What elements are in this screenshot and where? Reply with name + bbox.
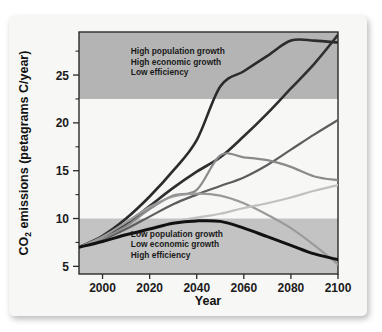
y-axis-title-post: emissions (petagrams C/year): [17, 51, 31, 232]
x-tick-label: 2000: [89, 281, 116, 295]
x-tick-label: 2100: [325, 281, 352, 295]
x-tick-label: 2080: [278, 281, 305, 295]
y-axis-title: CO2 emissions (petagrams C/year): [17, 51, 33, 256]
annotation-line: Low economic growth: [131, 239, 219, 249]
annotation-line: Low efficiency: [131, 67, 189, 77]
x-axis-title: Year: [195, 294, 222, 308]
x-tick-label: 2040: [183, 281, 210, 295]
x-tick-label: 2020: [136, 281, 163, 295]
annotation-line: High population growth: [131, 46, 225, 56]
y-tick-label: 20: [56, 116, 70, 130]
y-tick-label: 10: [56, 212, 70, 226]
annotation-line: High economic growth: [131, 57, 221, 67]
y-tick-label: 25: [56, 69, 70, 83]
y-axis-title-pre: CO: [17, 236, 31, 255]
co2-emissions-scenarios-chart: 200020202040206020802100 510152025 High …: [0, 0, 382, 332]
y-tick-label: 5: [62, 260, 69, 274]
annotation-line: High efficiency: [131, 250, 191, 260]
y-tick-label: 15: [56, 164, 70, 178]
x-axis: 200020202040206020802100: [89, 274, 351, 295]
y-axis: 510152025: [56, 51, 79, 274]
x-tick-label: 2060: [230, 281, 257, 295]
svg-text:CO2 emissions (petagrams C/yea: CO2 emissions (petagrams C/year): [17, 51, 33, 256]
annotation-line: Low population growth: [131, 229, 223, 239]
